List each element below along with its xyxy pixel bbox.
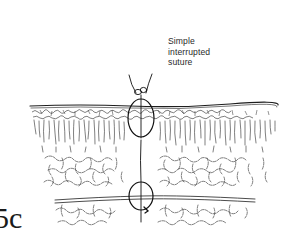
subcutaneous-layer [44,156,267,225]
suture [128,74,154,222]
suture-label: Simple interrupted suture [168,36,210,68]
suture-illustration: Simple interrupted suture 5c [0,0,295,251]
skin-surface [30,102,278,108]
label-line-1: Simple [168,36,210,47]
epidermis-layer [32,110,269,120]
fascia-layer [55,196,255,203]
needle-track [141,95,142,222]
dermis-layer [34,120,275,152]
skin-cross-section-drawing [0,0,295,251]
label-line-2: interrupted [168,47,210,58]
label-line-3: suture [168,57,210,68]
figure-number: 5c [0,203,22,233]
